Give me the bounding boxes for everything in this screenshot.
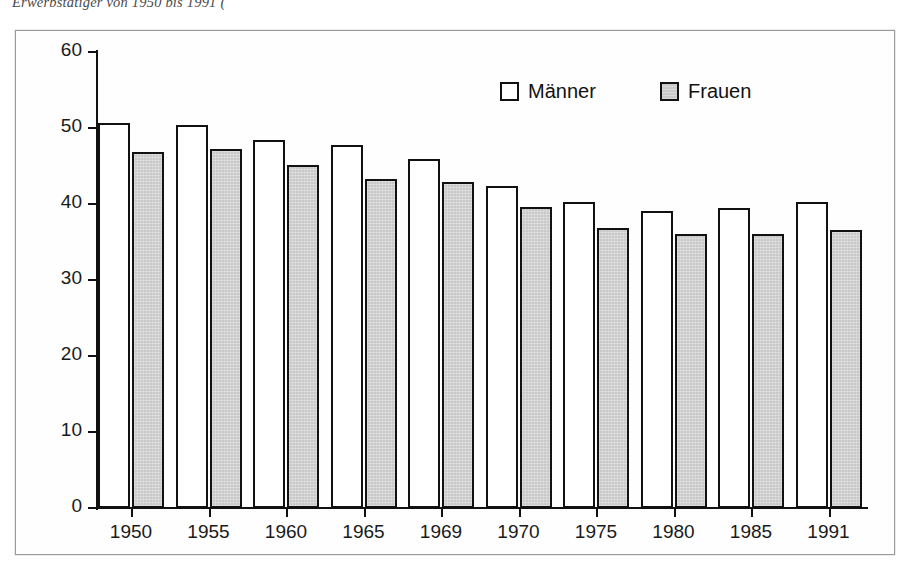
y-tick: [88, 203, 97, 205]
bar-frauen-1975: [597, 228, 629, 508]
x-tick-label: 1960: [241, 521, 331, 543]
x-tick: [364, 508, 366, 517]
y-tick-label: 40: [30, 191, 82, 213]
y-tick: [88, 507, 97, 509]
x-tick-label: 1985: [706, 521, 796, 543]
y-tick-label: 0: [30, 495, 82, 517]
bar-frauen-1965: [365, 179, 397, 508]
bar-frauen-1950: [132, 152, 164, 508]
bar-männer-1969: [408, 159, 440, 508]
x-tick: [596, 508, 598, 517]
bar-männer-1970: [486, 186, 518, 508]
y-tick-label: 60: [30, 39, 82, 61]
x-tick-label: 1965: [319, 521, 409, 543]
y-tick: [88, 431, 97, 433]
x-tick-label: 1980: [629, 521, 719, 543]
x-tick: [674, 508, 676, 517]
legend-label: Frauen: [688, 80, 751, 103]
bar-männer-1965: [331, 145, 363, 508]
y-tick-label: 50: [30, 115, 82, 137]
x-tick: [441, 508, 443, 517]
y-tick-label: 10: [30, 419, 82, 441]
bar-männer-1985: [718, 208, 750, 508]
bar-frauen-1955: [210, 149, 242, 508]
y-tick: [88, 355, 97, 357]
bar-männer-1991: [796, 202, 828, 508]
legend-label: Männer: [528, 80, 596, 103]
x-tick: [131, 508, 133, 517]
x-tick: [829, 508, 831, 517]
bar-frauen-1960: [287, 165, 319, 508]
bar-frauen-1970: [520, 207, 552, 508]
y-tick: [88, 127, 97, 129]
bar-männer-1955: [176, 125, 208, 508]
x-tick-label: 1975: [551, 521, 641, 543]
bar-männer-1950: [98, 123, 130, 508]
x-tick-label: 1970: [474, 521, 564, 543]
y-tick-label: 30: [30, 267, 82, 289]
bar-frauen-1980: [675, 234, 707, 508]
x-tick: [751, 508, 753, 517]
y-tick-label: 20: [30, 343, 82, 365]
legend-item-frauen: Frauen: [660, 80, 751, 103]
y-tick: [88, 51, 97, 53]
x-tick-label: 1991: [784, 521, 874, 543]
bar-männer-1980: [641, 211, 673, 508]
bar-frauen-1969: [442, 182, 474, 508]
bar-frauen-1991: [830, 230, 862, 508]
x-tick: [209, 508, 211, 517]
bar-männer-1960: [253, 140, 285, 508]
x-tick: [519, 508, 521, 517]
x-tick-label: 1950: [86, 521, 176, 543]
bar-männer-1975: [563, 202, 595, 508]
bar-chart: 0102030405060 19501955196019651969197019…: [0, 0, 915, 580]
x-tick-label: 1955: [164, 521, 254, 543]
legend-swatch-icon: [500, 82, 519, 101]
x-tick-label: 1969: [396, 521, 486, 543]
y-tick: [88, 279, 97, 281]
x-tick: [286, 508, 288, 517]
legend-item-männer: Männer: [500, 80, 596, 103]
bar-frauen-1985: [752, 234, 784, 508]
legend-swatch-icon: [660, 82, 679, 101]
